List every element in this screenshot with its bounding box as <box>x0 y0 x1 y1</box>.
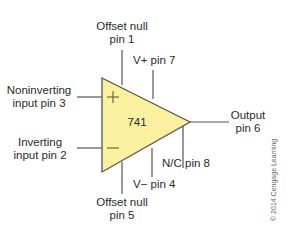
copyright-notice: © 2014 Cengage Learning <box>270 139 277 221</box>
vplus-pin7-label: V+ pin 7 <box>133 54 176 67</box>
output-pin6-line2: pin 6 <box>228 122 268 135</box>
offset-null-pin5-line1: Offset null <box>92 196 152 209</box>
inverting-pin2-line1: Inverting <box>5 136 75 149</box>
offset-null-pin1-line2: pin 1 <box>92 33 152 46</box>
output-pin6-label: Output pin 6 <box>228 109 268 135</box>
offset-null-pin5-label: Offset null pin 5 <box>92 196 152 222</box>
noninverting-pin3-line1: Noninverting <box>3 84 75 97</box>
noninverting-pin3-line2: input pin 3 <box>3 97 75 110</box>
inverting-pin2-label: Inverting input pin 2 <box>5 136 75 162</box>
offset-null-pin1-line1: Offset null <box>92 20 152 33</box>
vminus-pin4-label: V− pin 4 <box>133 178 176 191</box>
offset-null-pin1-label: Offset null pin 1 <box>92 20 152 46</box>
nc-pin8-label: N/C pin 8 <box>162 157 210 170</box>
offset-null-pin5-line2: pin 5 <box>92 209 152 222</box>
noninverting-pin3-label: Noninverting input pin 3 <box>3 84 75 110</box>
output-pin6-line1: Output <box>228 109 268 122</box>
inverting-pin2-line2: input pin 2 <box>5 149 75 162</box>
chip-label: 741 <box>122 116 152 129</box>
